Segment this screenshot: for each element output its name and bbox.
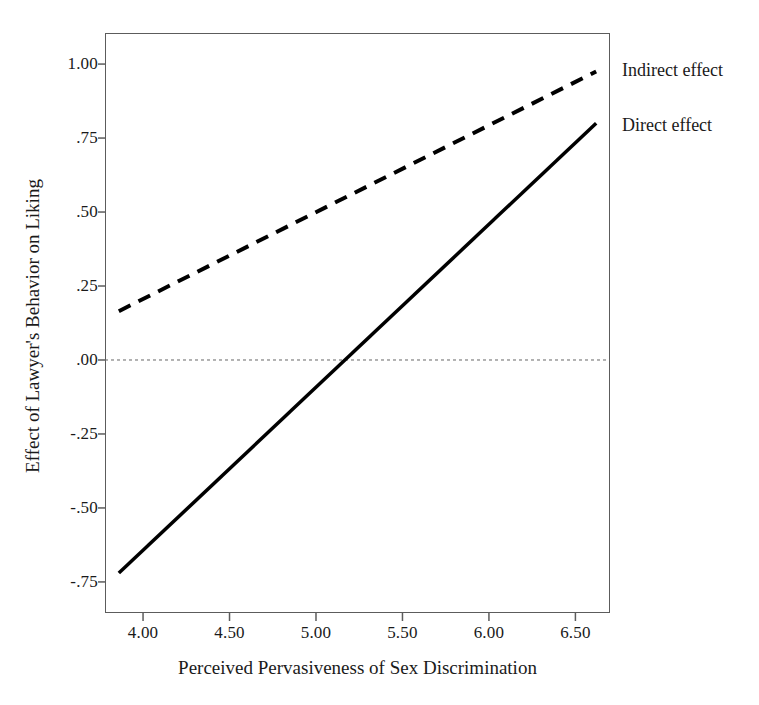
y-tick-label: .25: [46, 277, 98, 294]
x-axis-title: Perceived Pervasiveness of Sex Discrimin…: [105, 657, 610, 679]
y-tick-label: .75: [46, 129, 98, 146]
series-label-direct-effect: Direct effect: [622, 115, 712, 135]
x-tick-label: 6.00: [454, 624, 524, 642]
y-tick-label: -.75: [46, 573, 98, 590]
x-tick-label: 6.50: [540, 624, 610, 642]
y-tick-label: .00: [46, 351, 98, 368]
x-tick-label: 5.50: [367, 624, 437, 642]
plot-canvas: [105, 33, 610, 613]
x-tick-label: 4.50: [195, 624, 265, 642]
y-tick-label: .50: [46, 203, 98, 220]
y-axis-title: Effect of Lawyer's Behavior on Liking: [22, 116, 44, 536]
chart-figure: 1.00.75.50.25.00-.25-.50-.75 Effect of L…: [0, 0, 759, 705]
y-tick-label: -.50: [46, 499, 98, 516]
y-axis-tick-labels: 1.00.75.50.25.00-.25-.50-.75: [40, 0, 98, 705]
x-tick-label: 5.00: [281, 624, 351, 642]
axis-tick-marks: [98, 64, 575, 621]
y-tick-label: -.25: [46, 425, 98, 442]
x-tick-label: 4.00: [108, 624, 178, 642]
y-tick-label: 1.00: [46, 55, 98, 72]
series-label-indirect-effect: Indirect effect: [622, 60, 723, 80]
series-lines: [119, 71, 596, 573]
